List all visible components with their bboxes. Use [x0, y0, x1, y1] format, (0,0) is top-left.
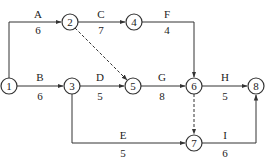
- node-2: 2: [62, 14, 78, 30]
- svg-text:6: 6: [35, 24, 41, 36]
- svg-text:4: 4: [164, 24, 170, 36]
- activity-d: D 5: [80, 71, 124, 102]
- svg-text:6: 6: [191, 80, 197, 92]
- svg-text:2: 2: [67, 16, 73, 28]
- activity-b: B 6: [17, 71, 63, 102]
- node-4: 4: [126, 14, 142, 30]
- activity-h: H 5: [202, 71, 247, 102]
- svg-text:G: G: [158, 71, 166, 83]
- node-3: 3: [64, 78, 80, 94]
- activity-g: G 8: [141, 71, 185, 102]
- activity-f: F 4: [142, 8, 194, 77]
- activity-a: A 6: [9, 8, 61, 78]
- svg-text:8: 8: [253, 80, 259, 92]
- svg-text:C: C: [97, 8, 104, 20]
- node-1: 1: [1, 78, 17, 94]
- svg-text:5: 5: [120, 147, 126, 159]
- activity-e: E 5: [72, 94, 185, 159]
- svg-text:6: 6: [222, 147, 228, 159]
- svg-text:8: 8: [159, 90, 165, 102]
- svg-text:7: 7: [98, 24, 104, 36]
- svg-text:3: 3: [69, 80, 75, 92]
- svg-text:E: E: [120, 129, 127, 141]
- node-6: 6: [186, 78, 202, 94]
- node-7: 7: [186, 135, 202, 151]
- svg-text:6: 6: [37, 90, 43, 102]
- svg-text:B: B: [36, 71, 43, 83]
- node-5: 5: [125, 78, 141, 94]
- svg-text:5: 5: [222, 90, 228, 102]
- svg-text:7: 7: [191, 137, 197, 149]
- svg-text:5: 5: [130, 80, 136, 92]
- node-8: 8: [248, 78, 264, 94]
- svg-text:1: 1: [6, 80, 12, 92]
- svg-text:5: 5: [97, 90, 103, 102]
- activity-i: I 6: [202, 95, 256, 159]
- svg-text:F: F: [164, 8, 170, 20]
- svg-text:A: A: [34, 8, 42, 20]
- network-diagram: A 6 B 6 C 7 D 5 E 5 F 4 G 8 H 5: [0, 0, 266, 161]
- svg-text:4: 4: [131, 16, 137, 28]
- svg-text:I: I: [223, 129, 227, 141]
- activity-c: C 7: [78, 8, 125, 36]
- svg-text:D: D: [96, 71, 104, 83]
- svg-text:H: H: [221, 71, 229, 83]
